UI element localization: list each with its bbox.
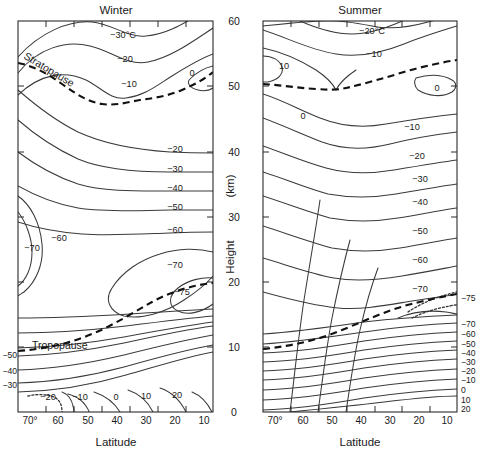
contour-label: −20 [117,54,133,64]
winter-top-ticks [46,21,186,27]
figure-canvas: Winter [0,0,488,459]
summer-panel: Summer [263,4,476,448]
contour-label: −50 [412,226,428,236]
x-tick-60: 60 [297,415,309,426]
contour-label: −60 [51,233,67,243]
winter-bottom-contour-labels: −20 −10 0 10 20 [40,390,182,402]
x-tick-30: 30 [384,415,396,426]
contour-label: 0 [300,111,305,121]
contour-label: −60 [167,225,183,235]
x-tick-10: 10 [198,415,210,426]
contour-label: 10 [141,391,151,401]
contour-winter-m70-tongue [108,249,213,317]
y-tick-50: 50 [228,80,240,92]
contour-label: 0 [113,392,118,402]
y-tick-40: 40 [228,146,240,158]
y-tick-20: 20 [228,276,240,288]
shared-y-axis: 60 50 40 30 20 10 0 (km) Height [224,15,240,418]
contour-summer-vert-1 [290,200,320,412]
edge-label: −10 [461,375,476,385]
x-tick-70: 70° [267,415,282,426]
contour-summer-0-mid [263,94,457,126]
x-axis-title-right: Latitude [340,436,381,448]
summer-right-edge-labels: −75 −70 −60 −50 −40 −30 −20 −10 0 10 20 [461,293,476,414]
y-tick-10: 10 [228,341,240,353]
winter-panel: Winter [2,4,213,448]
winter-left-ticks [18,86,24,347]
x-tick-10: 10 [441,415,453,426]
edge-label: 20 [461,404,471,414]
contour-label: 0 [189,68,194,78]
edge-label: 0 [461,385,466,395]
contour-summer-trop-10 [290,396,457,412]
x-tick-20: 20 [413,415,425,426]
contour-label: 10 [279,61,289,71]
contour-label: −10 [121,79,137,89]
y-tick-60: 60 [228,15,240,27]
contour-summer-trop-7 [263,369,457,390]
summer-right-ticks [451,86,457,347]
edge-label: −75 [461,293,476,303]
summer-panel-title: Summer [338,4,382,16]
summer-axes-frame [263,21,457,412]
contour-label: 0 [434,83,439,93]
contour-winter-m30-mid [18,120,213,172]
contour-summer-m50-mid [263,226,457,251]
edge-label: −40 [2,366,17,376]
summer-bottom-ticks [291,406,430,412]
contour-label: −20°C [359,26,385,36]
contour-label: −75 [174,287,190,297]
winter-left-edge-labels: −50 −40 −30 [2,350,17,390]
contour-label: −30°C [110,30,136,40]
y-tick-0: 0 [231,406,237,418]
contour-label: −20 [40,392,56,402]
contour-label: −20 [167,144,183,154]
contour-summer-m60-mid [263,258,457,280]
x-tick-50: 50 [82,415,94,426]
tropopause-label: Tropopause [32,339,88,351]
contour-summer-m10-mid [263,118,457,148]
x-axis-title-left: Latitude [96,436,137,448]
contour-label: −60 [412,255,428,265]
contour-summer-m20-mid [263,146,457,173]
contour-label: −70 [167,260,183,270]
contour-winter-trop-1 [18,309,213,318]
stratopause-label: Stratopause [22,49,77,89]
contour-label: −10 [366,49,382,59]
summer-contour-labels: −20°C −10 10 0 0 −10 −20 −30 −40 −50 −60… [279,26,440,294]
contour-summer-m40-mid [263,196,457,221]
x-tick-20: 20 [169,415,181,426]
contour-winter-trop-7 [18,352,213,392]
contour-label: −50 [167,202,183,212]
edge-label: −60 [461,329,476,339]
contour-label: −20 [409,151,425,161]
y-axis-title: Height [224,240,236,274]
contour-label: −40 [412,197,428,207]
edge-label: −70 [461,319,476,329]
winter-panel-title: Winter [99,4,132,16]
contour-winter-m20-mid [18,90,213,153]
y-axis-units: (km) [224,174,236,197]
contour-winter-20b-surface [192,392,212,412]
contour-label: −10 [72,392,88,402]
stratopause-line-summer [263,60,457,90]
winter-axes-frame [18,21,213,412]
contour-label: −30 [167,164,183,174]
contour-label: −70 [24,243,40,253]
contour-summer-m70-mid [263,292,457,309]
winter-x-tick-labels: 70° 60 50 40 30 20 10 [22,415,210,426]
contour-label: −10 [404,122,420,132]
x-tick-30: 30 [140,415,152,426]
tropopause-line-summer [263,294,457,349]
x-tick-40: 40 [355,415,367,426]
contour-label: −70 [412,284,428,294]
x-tick-60: 60 [52,415,64,426]
contour-label: −30 [412,174,428,184]
contour-summer-m20b-top [300,17,410,34]
x-tick-50: 50 [326,415,338,426]
summer-left-ticks [263,86,269,347]
temperature-cross-section-figure: Winter [0,0,488,459]
contour-label: 20 [172,390,182,400]
x-tick-40: 40 [111,415,123,426]
contour-summer-m30-mid [263,172,457,197]
